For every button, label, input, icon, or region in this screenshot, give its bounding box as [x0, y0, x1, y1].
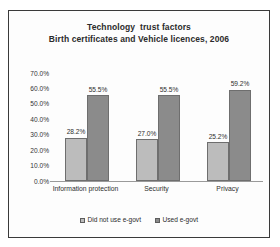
bar-group: 28.2%55.5%: [56, 73, 118, 181]
bar-value-label: 55.5%: [154, 86, 184, 94]
bar[interactable]: [136, 139, 158, 181]
legend-swatch-icon: [155, 218, 160, 223]
y-tick-label: 0.0%: [15, 178, 49, 185]
bar[interactable]: [207, 142, 229, 181]
y-axis: 70.0%60.0%50.0%40.0%30.0%20.0%10.0%0.0%: [11, 11, 49, 247]
legend-item[interactable]: Used e-govt: [155, 216, 198, 224]
x-axis-line: [50, 181, 263, 182]
bar[interactable]: [65, 138, 87, 182]
y-tick-label: 20.0%: [15, 147, 49, 154]
bar[interactable]: [229, 90, 251, 181]
y-tick-label: 60.0%: [15, 85, 49, 92]
x-tick-label: Security: [121, 184, 192, 193]
y-tick-label: 70.0%: [15, 70, 49, 77]
y-tick-label: 40.0%: [15, 116, 49, 123]
y-tick-label: 50.0%: [15, 100, 49, 107]
legend-label: Used e-govt: [162, 216, 198, 224]
x-tick-label: Privacy: [192, 184, 263, 193]
y-tick-label: 30.0%: [15, 131, 49, 138]
plot-area: 28.2%55.5%27.0%55.5%25.2%59.2%: [50, 73, 262, 181]
y-tick-label: 10.0%: [15, 162, 49, 169]
bar-group: 25.2%59.2%: [198, 73, 260, 181]
bar[interactable]: [87, 95, 109, 181]
legend-swatch-icon: [80, 218, 85, 223]
chart-legend: Did not use e-govt Used e-govt: [9, 216, 269, 224]
bar-value-label: 59.2%: [225, 80, 255, 88]
x-tick-label: Information protection: [50, 184, 121, 193]
legend-label: Did not use e-govt: [87, 216, 141, 224]
bar-value-label: 55.5%: [83, 86, 113, 94]
legend-item[interactable]: Did not use e-govt: [80, 216, 141, 224]
bar[interactable]: [158, 95, 180, 181]
chart-container: Technology trust factors Birth certifica…: [8, 10, 270, 238]
bar-group: 27.0%55.5%: [127, 73, 189, 181]
